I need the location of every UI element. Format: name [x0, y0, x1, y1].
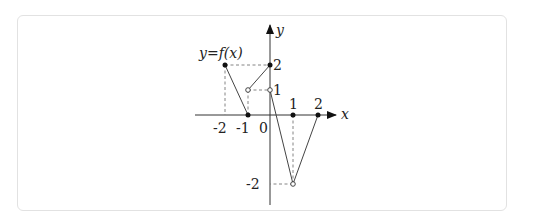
- function-graph: y=f(x) x y 0 -2 -1 1 2 2 1 -2: [0, 0, 542, 222]
- open-point: [268, 88, 273, 93]
- closed-point: [268, 63, 273, 68]
- open-point: [291, 182, 296, 187]
- closed-point: [246, 113, 251, 118]
- closed-point: [223, 63, 228, 68]
- closed-point: [291, 113, 296, 118]
- x-axis-label: x: [341, 106, 349, 122]
- x-tick-label: 2: [314, 96, 323, 112]
- origin-label: 0: [259, 120, 268, 136]
- y-tick-label: 2: [273, 57, 282, 73]
- labels: y=f(x) x y 0 -2 -1 1 2 2 1 -2: [198, 22, 349, 192]
- y-tick-label: 1: [273, 82, 282, 98]
- x-tick-label: -1: [236, 120, 250, 136]
- x-tick-label: -2: [213, 120, 227, 136]
- y-tick-label: -2: [246, 176, 260, 192]
- open-point: [246, 88, 251, 93]
- x-tick-label: 1: [289, 96, 298, 112]
- y-axis-label: y: [275, 22, 285, 38]
- function-label: y=f(x): [198, 45, 243, 61]
- closed-point: [316, 113, 321, 118]
